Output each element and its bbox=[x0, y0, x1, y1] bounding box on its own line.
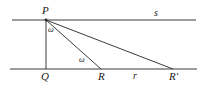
label-angle-omega-at-p: ω bbox=[48, 26, 54, 34]
segment-pr bbox=[46, 20, 101, 69]
label-line-s: s bbox=[154, 8, 158, 18]
segment-pr-prime bbox=[46, 20, 173, 69]
point-p-marker bbox=[45, 19, 48, 22]
label-point-p: P bbox=[42, 5, 49, 16]
label-angle-omega-at-r: ω bbox=[79, 56, 85, 64]
label-point-r: R bbox=[98, 71, 105, 82]
label-point-q: Q bbox=[41, 71, 49, 82]
label-segment-r: r bbox=[133, 71, 137, 81]
label-point-r-prime: R' bbox=[169, 71, 178, 82]
geometry-figure: P s Q R R' r ω ω bbox=[0, 0, 203, 91]
